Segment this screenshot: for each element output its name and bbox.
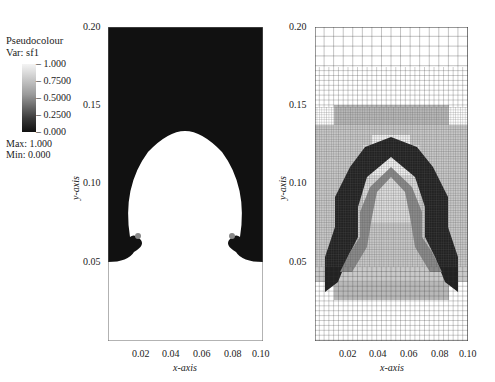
mesh-plot <box>315 27 468 341</box>
colorbar-tick: 0.000 <box>36 126 66 137</box>
y-axis-label: y-axis <box>277 176 288 200</box>
x-tick: 0.04 <box>162 348 180 359</box>
x-tick: 0.10 <box>459 348 477 359</box>
x-tick: 0.04 <box>369 348 387 359</box>
y-tick: 0.05 <box>289 256 307 267</box>
y-tick: 0.15 <box>289 99 307 110</box>
x-tick: 0.02 <box>132 348 150 359</box>
x-axis-label: x-axis <box>173 362 197 373</box>
colorbar-tick: 0.5000 <box>36 92 71 103</box>
y-tick: 0.20 <box>83 21 101 32</box>
y-tick: 0.10 <box>83 177 101 188</box>
y-tick: 0.05 <box>83 256 101 267</box>
legend-max: Max: 1.000 <box>6 138 52 149</box>
x-tick: 0.08 <box>224 348 242 359</box>
legend-title: Pseudocolour <box>6 35 63 47</box>
legend-variable: Var: sf1 <box>6 47 39 58</box>
colorbar <box>22 64 36 132</box>
colorbar-tick: 1.000 <box>36 58 66 69</box>
y-tick: 0.15 <box>83 99 101 110</box>
colorbar-tick: 0.2500 <box>36 109 71 120</box>
x-tick: 0.08 <box>431 348 449 359</box>
x-tick: 0.10 <box>252 348 270 359</box>
y-tick: 0.20 <box>289 21 307 32</box>
legend-min: Min: 0.000 <box>6 149 50 160</box>
colorbar-tick: 0.7500 <box>36 75 71 86</box>
x-tick: 0.06 <box>400 348 418 359</box>
x-tick: 0.06 <box>193 348 211 359</box>
x-axis-label: x-axis <box>380 362 404 373</box>
x-tick: 0.02 <box>339 348 357 359</box>
y-axis-label: y-axis <box>70 176 81 200</box>
pseudocolour-plot <box>108 27 263 341</box>
y-tick: 0.10 <box>289 177 307 188</box>
